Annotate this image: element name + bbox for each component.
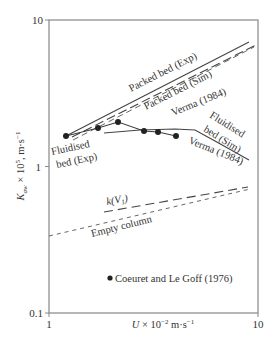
legend: Coeuret and Le Goff (1976) <box>107 273 233 285</box>
data-point <box>95 125 101 131</box>
x-axis-label: U × 10−2 m·s−1 <box>132 318 195 330</box>
legend-label: Coeuret and Le Goff (1976) <box>115 273 233 285</box>
y-tick-10: 10 <box>32 14 44 26</box>
label-empty-column: Empty column <box>90 213 154 239</box>
y-axis-label: Kaw × 105, m·s−1 <box>14 131 29 201</box>
y-tick-0-1: 0.1 <box>29 307 43 319</box>
x-tick-10: 10 <box>253 318 265 330</box>
data-point <box>141 128 147 134</box>
y-tick-1: 1 <box>36 161 42 173</box>
x-tick-1: 1 <box>46 318 52 330</box>
data-point <box>115 119 121 125</box>
data-point <box>63 133 69 139</box>
label-k-v1: k(V1) <box>105 192 129 209</box>
y-axis: 10 1 0.1 <box>29 14 49 319</box>
plot-frame <box>49 20 258 313</box>
chart: 10 1 0.1 1 10 U × 10−2 m·s−1 Kaw × 105, … <box>0 0 278 343</box>
legend-marker-icon <box>107 275 112 280</box>
data-point <box>155 129 161 135</box>
data-point <box>173 133 179 139</box>
